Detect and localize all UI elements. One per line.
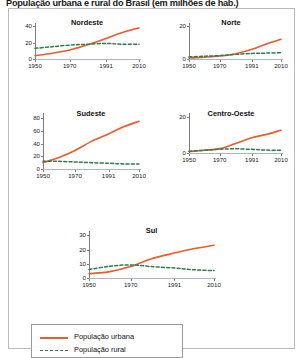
- legend-swatch-rural: [40, 350, 68, 351]
- chart-legend: População urbana População rural: [31, 324, 183, 358]
- series-layer: [9, 9, 296, 350]
- chart-frame: Nordeste020401950197019912010Norte020195…: [8, 8, 295, 349]
- page-title: População urbana e rural do Brasil (em m…: [6, 0, 301, 8]
- legend-label-urban: População urbana: [74, 332, 134, 341]
- legend-label-rural: População rural: [74, 345, 126, 354]
- series-line-rural: [89, 265, 214, 271]
- legend-swatch-urban: [40, 337, 68, 339]
